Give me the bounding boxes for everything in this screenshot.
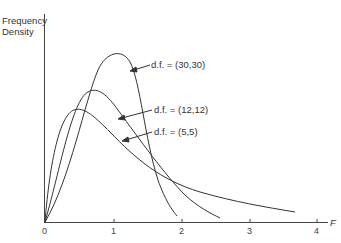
f-distribution-chart: 0 1 2 3 4 F d.f. = (30,30) d.f. = (12,12…	[0, 0, 341, 243]
label-df-5-5: d.f. = (5,5)	[154, 126, 198, 137]
x-tick-3: 3	[247, 226, 252, 236]
x-tick-2: 2	[179, 226, 184, 236]
label-df-30-30: d.f. = (30,30)	[151, 59, 205, 70]
x-axis-label: F	[330, 217, 337, 228]
x-tick-4: 4	[314, 226, 319, 236]
label-df-12-12: d.f. = (12,12)	[154, 104, 208, 115]
x-tick-0: 0	[42, 226, 47, 236]
curve-df-30-30	[45, 54, 177, 222]
x-ticks	[114, 219, 317, 222]
x-tick-1: 1	[111, 226, 116, 236]
